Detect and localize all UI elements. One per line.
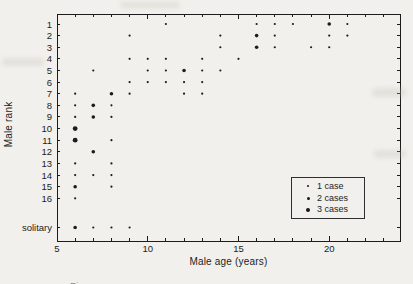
data-point <box>274 23 276 25</box>
data-point <box>274 35 276 37</box>
data-point <box>256 23 258 25</box>
data-point <box>92 226 94 228</box>
y-tick-label: 16 <box>41 193 52 204</box>
data-point <box>147 69 149 71</box>
data-point <box>91 150 95 154</box>
legend-entry-1case: 1 case <box>302 181 364 192</box>
y-tick-label: 7 <box>47 88 52 99</box>
data-point <box>219 35 221 37</box>
data-point <box>182 69 186 73</box>
y-tick-label: 11 <box>42 135 52 146</box>
data-point <box>110 162 112 164</box>
scatter-plot-canvas: 510152012345678910111213141516solitary <box>0 0 413 284</box>
data-point <box>201 58 203 60</box>
data-point <box>73 226 77 230</box>
data-point <box>110 92 114 96</box>
y-tick-label: 9 <box>47 111 52 122</box>
data-point <box>74 162 76 164</box>
scanned-figure-page: 510152012345678910111213141516solitary M… <box>0 0 413 284</box>
data-point <box>165 69 167 71</box>
x-axis-title: Male age (years) <box>57 256 400 267</box>
data-point <box>73 185 77 189</box>
x-tick-label: 15 <box>233 243 244 254</box>
data-point <box>274 46 276 48</box>
data-point <box>128 226 130 228</box>
caption-fragment: Figure <box>70 280 350 284</box>
data-point <box>165 81 167 83</box>
data-point <box>292 23 294 25</box>
data-point <box>110 139 112 141</box>
data-point <box>346 35 348 37</box>
legend-label-2cases: 2 cases <box>317 193 348 204</box>
x-tick-label: 20 <box>324 243 335 254</box>
data-point <box>73 126 78 131</box>
data-point <box>219 69 221 71</box>
data-point <box>237 58 239 60</box>
legend-label-3cases: 3 cases <box>317 204 348 215</box>
one-case-dot-icon <box>307 185 309 187</box>
data-point <box>183 93 185 95</box>
data-point <box>92 174 94 176</box>
y-tick-label: 14 <box>41 170 52 181</box>
data-point <box>147 81 149 83</box>
data-point <box>255 45 259 49</box>
y-tick-label: 13 <box>41 158 52 169</box>
data-point <box>73 138 78 143</box>
data-point <box>74 174 76 176</box>
data-point <box>328 35 330 37</box>
legend-entry-3cases: 3 cases <box>302 204 364 215</box>
y-tick-label: solitary <box>22 222 52 233</box>
data-point <box>74 197 76 199</box>
data-point <box>328 46 330 48</box>
data-point <box>110 174 112 176</box>
data-point <box>346 23 348 25</box>
data-point <box>128 58 130 60</box>
data-point <box>310 46 312 48</box>
data-point <box>165 58 167 60</box>
legend-entry-2cases: 2 cases <box>302 193 364 204</box>
data-point <box>219 46 221 48</box>
data-point <box>201 69 203 71</box>
y-tick-label: 10 <box>41 123 52 134</box>
two-cases-dot-icon <box>307 197 310 200</box>
data-point <box>74 116 76 118</box>
data-point <box>128 35 130 37</box>
legend-label-1case: 1 case <box>317 181 344 192</box>
legend-marker-column <box>302 208 314 213</box>
data-point <box>255 34 259 38</box>
y-tick-label: 5 <box>47 65 52 76</box>
data-point <box>201 93 203 95</box>
data-point <box>92 69 94 71</box>
x-tick-label: 5 <box>54 243 59 254</box>
y-axis-title: Male rank <box>3 90 14 160</box>
data-point <box>91 104 95 108</box>
data-point <box>128 93 130 95</box>
data-point <box>110 104 112 106</box>
y-tick-label: 15 <box>41 181 52 192</box>
legend-box: 1 case 2 cases 3 cases <box>291 177 365 219</box>
y-tick-label: 8 <box>47 100 52 111</box>
data-point <box>183 81 185 83</box>
data-point <box>201 81 203 83</box>
data-point <box>91 115 95 119</box>
data-point <box>110 186 112 188</box>
data-point <box>327 22 331 26</box>
y-tick-label: 12 <box>41 146 52 157</box>
y-tick-label: 4 <box>47 53 52 64</box>
y-tick-label: 3 <box>47 42 52 53</box>
legend-marker-column <box>302 185 314 187</box>
data-point <box>110 226 112 228</box>
y-tick-label: 2 <box>47 30 52 41</box>
data-point <box>165 23 167 25</box>
data-point <box>128 81 130 83</box>
legend-marker-column <box>302 197 314 200</box>
data-point <box>110 116 112 118</box>
data-point <box>74 104 76 106</box>
y-tick-label: 6 <box>47 77 52 88</box>
y-tick-label: 1 <box>47 19 52 30</box>
data-point <box>147 58 149 60</box>
x-tick-label: 10 <box>142 243 153 254</box>
three-cases-dot-icon <box>306 208 311 213</box>
data-point <box>74 93 76 95</box>
